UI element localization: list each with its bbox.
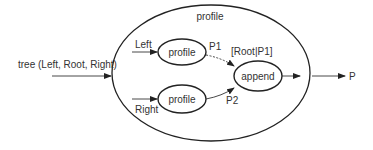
outer-profile-label: profile <box>196 11 224 22</box>
append-label: append <box>241 71 274 82</box>
profile-diagram: profile tree (Left, Root, Right) Left pr… <box>0 0 373 150</box>
left-label: Left <box>135 39 152 50</box>
root-p1-label: [Root|P1] <box>231 46 273 57</box>
p1-label: P1 <box>209 41 222 52</box>
output-label: P <box>349 71 356 82</box>
profile-left-label: profile <box>168 47 196 58</box>
right-label: Right <box>135 104 159 115</box>
p2-label: P2 <box>226 95 239 106</box>
profile-right-label: profile <box>168 94 196 105</box>
input-label: tree (Left, Root, Right) <box>18 59 117 70</box>
